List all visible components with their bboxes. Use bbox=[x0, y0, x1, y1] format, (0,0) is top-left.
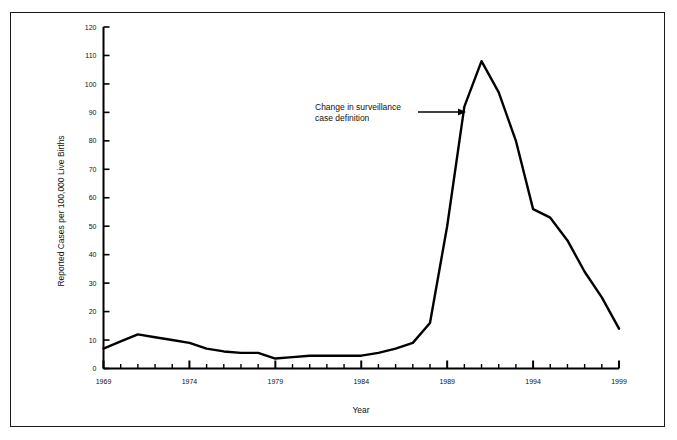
annotation-line-1: Change in surveillance bbox=[315, 102, 401, 112]
y-tick-label: 60 bbox=[89, 194, 97, 201]
y-tick-label: 90 bbox=[89, 109, 97, 116]
y-axis-tick-labels: 0102030405060708090100110120 bbox=[85, 24, 97, 373]
x-tick-label: 1989 bbox=[439, 378, 455, 385]
x-tick-label: 1969 bbox=[96, 378, 112, 385]
annotation-line-2: case definition bbox=[315, 113, 370, 123]
x-axis-title: Year bbox=[352, 405, 369, 415]
x-axis-tick-labels: 1969197419791984198919941999 bbox=[96, 378, 627, 385]
y-tick-label: 80 bbox=[89, 137, 97, 144]
x-tick-label: 1999 bbox=[611, 378, 627, 385]
x-tick-label: 1984 bbox=[353, 378, 369, 385]
y-tick-label: 120 bbox=[85, 24, 97, 31]
x-tick-label: 1979 bbox=[268, 378, 284, 385]
y-tick-label: 100 bbox=[85, 81, 97, 88]
x-tick-label: 1974 bbox=[182, 378, 198, 385]
y-tick-label: 110 bbox=[85, 52, 96, 59]
x-tick-label: 1994 bbox=[525, 378, 541, 385]
y-tick-label: 0 bbox=[93, 365, 97, 372]
annotation-arrow-icon bbox=[418, 109, 466, 116]
y-tick-label: 20 bbox=[89, 308, 97, 315]
y-tick-label: 70 bbox=[89, 166, 97, 173]
y-tick-label: 50 bbox=[89, 223, 97, 230]
x-axis-ticks bbox=[104, 361, 620, 369]
y-axis-title: Reported Cases per 100,000 Live Births bbox=[56, 135, 66, 286]
y-tick-label: 40 bbox=[89, 251, 97, 258]
line-chart: 0102030405060708090100110120 19691974197… bbox=[0, 0, 677, 440]
figure-container: 0102030405060708090100110120 19691974197… bbox=[0, 0, 677, 440]
surveillance-annotation: Change in surveillance case definition bbox=[315, 102, 466, 123]
y-tick-label: 10 bbox=[89, 337, 97, 344]
y-tick-label: 30 bbox=[89, 280, 97, 287]
